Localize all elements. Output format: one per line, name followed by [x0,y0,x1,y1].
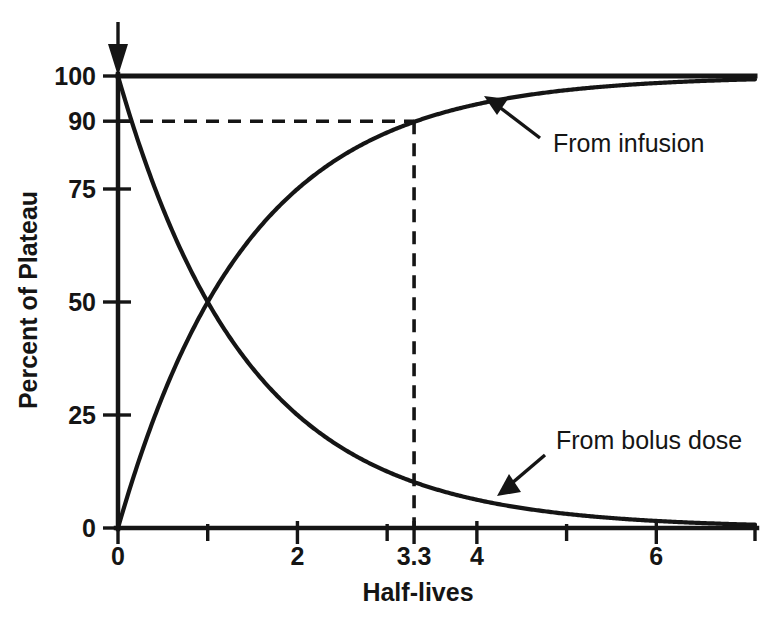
dose-arrow-icon [108,22,128,76]
x-tick-label-2: 2 [290,542,304,570]
x-tick-label-6: 6 [649,542,663,570]
y-tick-label-100: 100 [54,62,96,90]
from-bolus-label: From bolus dose [556,426,742,454]
y-axis-tick-labels: 025507590100 [54,62,96,542]
annotation-from-bolus-dose: From bolus dose [497,426,742,496]
y-tick-label-90: 90 [68,107,96,135]
y-tick-label-75: 75 [68,175,96,203]
y-tick-label-50: 50 [68,288,96,316]
annotation-from-infusion: From infusion [484,96,704,157]
from-infusion-label: From infusion [553,129,704,157]
x-axis-title: Half-lives [362,578,473,606]
y-tick-label-25: 25 [68,401,96,429]
x-tick-label-0: 0 [111,542,125,570]
chart-figure: 025507590100 023.346 From infusion From … [0,0,784,626]
x-axis-ticks [118,521,755,544]
x-axis-tick-labels: 023.346 [111,542,663,570]
y-axis-title: Percent of Plateau [14,191,42,409]
x-tick-label-4: 4 [470,542,484,570]
chart-plot-area: 025507590100 023.346 From infusion From … [0,0,784,626]
x-tick-label-3.3: 3.3 [397,542,432,570]
dose-arrow-head [108,44,128,76]
y-tick-label-0: 0 [82,514,96,542]
